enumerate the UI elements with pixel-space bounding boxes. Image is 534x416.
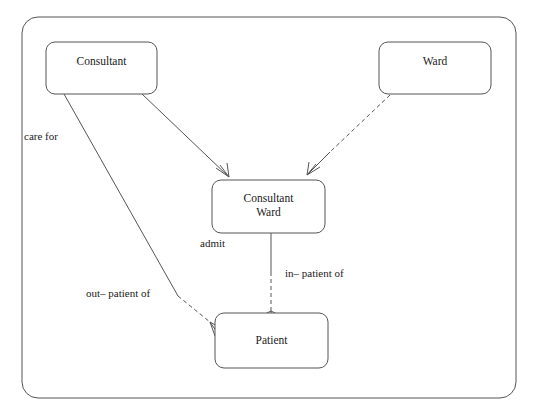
connector-ward-consultantward-dashed — [330, 95, 390, 152]
relationship-label-in-patient-of: in– patient of — [285, 267, 344, 279]
entity-ward-box[interactable] — [379, 42, 491, 94]
entity-consultant-ward-label-line1: Consultant — [244, 192, 295, 204]
entity-consultant[interactable]: Consultant — [46, 42, 157, 94]
relationship-label-care-for: care for — [24, 130, 58, 142]
connector-consultant-consultantward — [142, 94, 229, 177]
er-diagram: Consultant Ward Consultant Ward Patient … — [0, 0, 534, 416]
entity-consultant-label: Consultant — [77, 55, 128, 67]
crowsfoot-consultant-consultantward — [216, 163, 229, 177]
entity-consultant-ward[interactable]: Consultant Ward — [212, 180, 325, 233]
entity-consultant-box[interactable] — [46, 42, 157, 94]
diagram-canvas: Consultant Ward Consultant Ward Patient … — [0, 0, 534, 416]
connector-carefor-solid — [64, 94, 178, 296]
entity-consultant-ward-label-line2: Ward — [256, 206, 281, 218]
relationship-label-out-patient-of: out– patient of — [86, 287, 150, 299]
connector-outpatientof-dashed — [178, 296, 210, 322]
entity-ward[interactable]: Ward — [379, 42, 491, 94]
entity-ward-label: Ward — [423, 55, 448, 67]
entity-patient[interactable]: Patient — [215, 313, 328, 368]
entity-patient-label: Patient — [256, 334, 289, 346]
relationship-label-admit: admit — [200, 237, 225, 249]
